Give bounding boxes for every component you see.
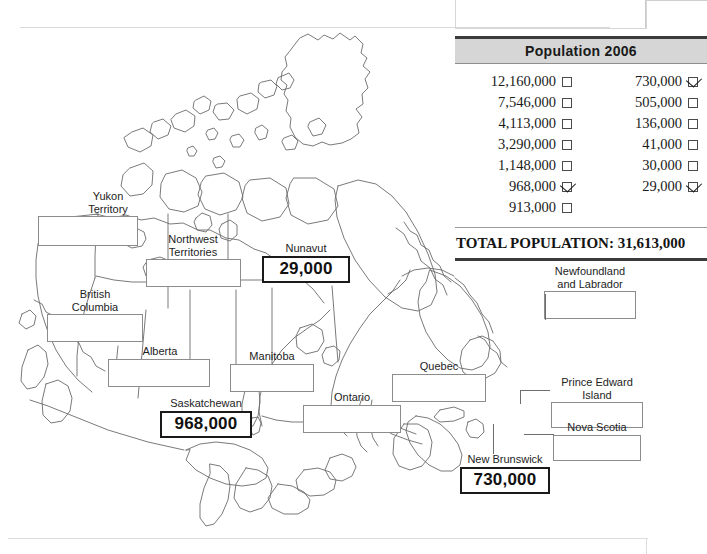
answer-box-alberta[interactable] <box>108 359 210 387</box>
pop-value: 4,113,000 <box>499 115 556 132</box>
pop-value: 913,000 <box>509 199 556 216</box>
province-label-quebec: Quebec <box>392 360 486 373</box>
pop-option-left-1[interactable]: 12,160,000 <box>455 73 581 90</box>
province-label-newfoundland-and-labrador: Newfoundland and Labrador <box>540 265 640 290</box>
table-body: 12,160,000 730,000 7,546,000 505,000 <box>455 64 707 222</box>
worksheet-page: Yukon Territory Northwest Territories Nu… <box>0 0 707 554</box>
province-label-british-columbia: British Columbia <box>57 288 133 313</box>
leader-line-newfoundland <box>545 294 546 320</box>
checkbox-icon[interactable] <box>562 98 572 108</box>
table-row: 7,546,000 505,000 <box>455 92 707 113</box>
pop-option-right-2[interactable]: 505,000 <box>581 94 707 111</box>
province-label-prince-edward-island: Prince Edward Island <box>547 376 647 401</box>
checkbox-icon[interactable] <box>562 77 572 87</box>
province-manitoba: Manitoba <box>238 350 306 392</box>
checkbox-icon[interactable] <box>562 182 572 192</box>
pop-option-right-3[interactable]: 136,000 <box>581 115 707 132</box>
pop-option-right-5[interactable]: 30,000 <box>581 157 707 174</box>
pop-value: 3,290,000 <box>498 136 556 153</box>
checkbox-icon[interactable] <box>562 203 572 213</box>
table-row: 913,000 <box>455 197 707 218</box>
province-yukon-territory: Yukon Territory <box>58 190 158 246</box>
answer-value-nunavut: 29,000 <box>279 259 332 279</box>
leader-line-nova-scotia <box>524 434 554 435</box>
checkbox-icon[interactable] <box>562 119 572 129</box>
province-saskatchewan: Saskatchewan 968,000 <box>160 397 252 438</box>
total-population-label: TOTAL POPULATION: 31,613,000 <box>455 228 707 258</box>
checkbox-icon[interactable] <box>688 77 698 87</box>
province-nova-scotia: Nova Scotia <box>553 421 641 461</box>
province-label-northwest-territories: Northwest Territories <box>148 233 238 258</box>
checkbox-icon[interactable] <box>688 98 698 108</box>
answer-box-yukon-territory[interactable] <box>38 216 138 246</box>
answer-box-manitoba[interactable] <box>230 364 314 392</box>
pop-value: 29,000 <box>642 178 682 195</box>
pop-option-left-4[interactable]: 3,290,000 <box>455 136 581 153</box>
province-new-brunswick: New Brunswick 730,000 <box>460 453 550 494</box>
pop-option-left-7[interactable]: 913,000 <box>455 199 581 216</box>
checkbox-icon[interactable] <box>688 161 698 171</box>
checkbox-icon[interactable] <box>562 140 572 150</box>
answer-value-new-brunswick: 730,000 <box>474 470 537 490</box>
answer-box-new-brunswick[interactable]: 730,000 <box>460 467 550 494</box>
population-table: Population 2006 12,160,000 730,000 7,546… <box>455 36 707 261</box>
table-row: 4,113,000 136,000 <box>455 113 707 134</box>
pop-value: 968,000 <box>509 178 556 195</box>
leader-line-prince-edward-island <box>520 390 550 391</box>
province-label-alberta: Alberta <box>118 345 202 358</box>
answer-box-northwest-territories[interactable] <box>146 259 241 287</box>
answer-box-saskatchewan[interactable]: 968,000 <box>160 411 252 438</box>
answer-box-ontario[interactable] <box>303 405 401 433</box>
province-alberta: Alberta <box>118 345 202 387</box>
province-label-ontario: Ontario <box>303 391 401 404</box>
canada-map <box>0 18 520 538</box>
pop-option-left-2[interactable]: 7,546,000 <box>455 94 581 111</box>
table-row: 968,000 29,000 <box>455 176 707 197</box>
pop-option-left-3[interactable]: 4,113,000 <box>455 115 581 132</box>
page-bottom-tick <box>646 538 647 554</box>
answer-value-saskatchewan: 968,000 <box>175 414 238 434</box>
province-ontario: Ontario <box>303 391 401 433</box>
pop-value: 1,148,000 <box>498 157 556 174</box>
answer-box-nunavut[interactable]: 29,000 <box>262 256 350 283</box>
table-title: Population 2006 <box>525 43 637 59</box>
pop-option-left-5[interactable]: 1,148,000 <box>455 157 581 174</box>
province-northwest-territories: Northwest Territories <box>148 233 238 287</box>
pop-value: 12,160,000 <box>491 73 556 90</box>
checkbox-icon[interactable] <box>562 161 572 171</box>
pop-option-right-6[interactable]: 29,000 <box>581 178 707 195</box>
checkbox-icon[interactable] <box>688 119 698 129</box>
table-row: 3,290,000 41,000 <box>455 134 707 155</box>
header-stub-tick <box>645 0 646 28</box>
pop-value: 30,000 <box>642 157 682 174</box>
pop-option-right-4[interactable]: 41,000 <box>581 136 707 153</box>
pop-option-left-6[interactable]: 968,000 <box>455 178 581 195</box>
pop-value: 41,000 <box>642 136 682 153</box>
pop-option-right-1[interactable]: 730,000 <box>581 73 707 90</box>
checkbox-icon[interactable] <box>688 140 698 150</box>
answer-box-nova-scotia[interactable] <box>553 435 641 461</box>
province-label-nova-scotia: Nova Scotia <box>553 421 641 434</box>
pop-value: 136,000 <box>635 115 682 132</box>
province-british-columbia: British Columbia <box>57 288 133 342</box>
leader-line-new-brunswick <box>493 424 494 454</box>
province-label-new-brunswick: New Brunswick <box>460 453 550 466</box>
leader-line-pei-stem <box>520 390 521 404</box>
province-newfoundland-and-labrador: Newfoundland and Labrador <box>540 265 640 319</box>
table-row: 12,160,000 730,000 <box>455 71 707 92</box>
checkbox-icon[interactable] <box>688 182 698 192</box>
province-label-saskatchewan: Saskatchewan <box>160 397 252 410</box>
pop-value: 730,000 <box>635 73 682 90</box>
province-nunavut: Nunavut 29,000 <box>262 242 350 283</box>
table-row: 1,148,000 30,000 <box>455 155 707 176</box>
table-header: Population 2006 <box>455 39 707 64</box>
answer-box-british-columbia[interactable] <box>47 314 143 342</box>
province-label-manitoba: Manitoba <box>238 350 306 363</box>
province-quebec: Quebec <box>392 360 486 402</box>
table-bottom-rule <box>455 258 707 261</box>
page-bottom-rule <box>8 538 648 539</box>
answer-box-quebec[interactable] <box>392 374 486 402</box>
pop-value: 505,000 <box>635 94 682 111</box>
province-label-yukon-territory: Yukon Territory <box>58 190 158 215</box>
answer-box-newfoundland-and-labrador[interactable] <box>544 291 636 319</box>
